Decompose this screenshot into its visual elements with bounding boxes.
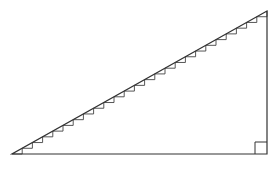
right-angle-marker [255, 142, 267, 154]
diagram-canvas [0, 0, 275, 169]
triangle-outline [12, 11, 267, 154]
right-triangle-diagram [0, 0, 275, 169]
